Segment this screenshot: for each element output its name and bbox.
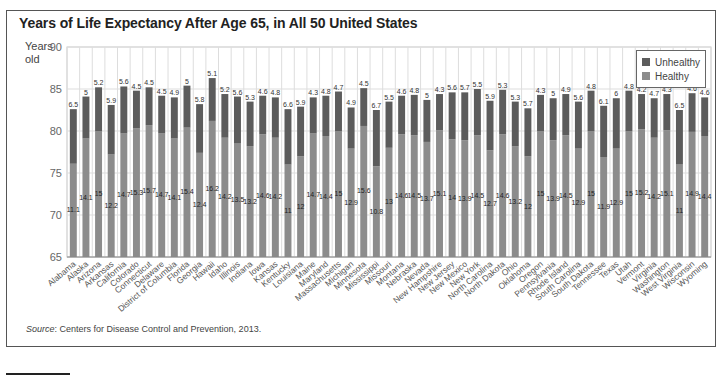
value-label-unhealthy: 5.6 [447,84,457,91]
value-label-healthy: 15.6 [357,187,371,194]
value-label-unhealthy: 4.7 [334,84,344,91]
value-label-healthy: 11.9 [597,203,610,210]
value-label-unhealthy: 4.8 [409,87,419,94]
bar-unhealthy [234,97,241,144]
bar-unhealthy [360,88,367,126]
value-label-healthy: 14.5 [471,192,485,199]
value-label-healthy: 15 [537,190,545,197]
value-label-unhealthy: 5.5 [384,94,394,101]
value-label-unhealthy: 4.5 [132,83,142,90]
value-label-unhealthy: 5.3 [510,94,520,101]
value-label-healthy: 14.1 [79,194,93,201]
value-label-unhealthy: 5.7 [460,84,470,91]
legend-label-unhealthy: Unhealthy [655,57,700,68]
bar-unhealthy [423,100,430,142]
value-label-healthy: 14.4 [698,193,712,200]
value-label-unhealthy: 5.9 [485,93,495,100]
bar-unhealthy [221,94,228,138]
y-tick-label: 75 [50,167,62,179]
value-label-healthy: 12.7 [483,200,497,207]
value-label-healthy: 12.2 [104,202,118,209]
value-label-healthy: 13.2 [508,198,522,205]
value-label-healthy: 11.1 [67,206,80,213]
value-label-unhealthy: 4.5 [144,79,154,86]
value-label-unhealthy: 4.9 [561,86,571,93]
value-label-healthy: 14.4 [319,193,333,200]
value-label-unhealthy: 5.1 [207,70,217,77]
value-label-unhealthy: 4.8 [270,89,280,96]
value-label-unhealthy: 6.7 [372,102,382,109]
bar-unhealthy [82,97,89,139]
value-label-unhealthy: 5.5 [473,81,483,88]
bar-unhealthy [436,94,443,130]
value-label-healthy: 12.9 [344,199,358,206]
y-tick-label: 80 [50,125,62,137]
value-label-unhealthy: 4.8 [586,83,596,90]
bar-unhealthy [613,98,620,148]
bar-unhealthy [146,87,153,125]
value-label-unhealthy: 5.2 [220,86,230,93]
source-prefix: Source [26,324,55,334]
bar-unhealthy [499,90,506,135]
bar-unhealthy [600,106,607,157]
bar-unhealthy [638,94,645,129]
value-label-unhealthy: 4.6 [397,88,407,95]
value-label-unhealthy: 4.8 [624,83,634,90]
bar-unhealthy [474,89,481,135]
bar-unhealthy [550,98,557,140]
value-label-healthy: 15.4 [180,188,194,195]
value-label-healthy: 15.1 [433,190,447,197]
bar-unhealthy [398,96,405,135]
bar-unhealthy [196,104,203,153]
bar-unhealthy [676,110,683,165]
value-label-unhealthy: 6 [614,90,618,97]
value-label-healthy: 10.8 [370,208,384,215]
healthy-swatch [642,72,650,80]
value-label-unhealthy: 4.9 [169,89,179,96]
value-label-unhealthy: 5.6 [574,94,584,101]
value-label-unhealthy: 5.9 [296,99,306,106]
value-label-healthy: 15 [625,190,633,197]
value-label-unhealthy: 5.8 [195,96,205,103]
value-label-unhealthy: 5 [84,89,88,96]
bar-unhealthy [108,105,115,155]
bar-unhealthy [537,95,544,131]
bar-unhealthy [689,93,696,132]
bar-unhealthy [651,98,658,137]
bar-unhealthy [348,107,355,148]
bar-unhealthy [183,86,190,128]
bar-unhealthy [449,92,456,139]
bar-unhealthy [575,102,582,149]
value-label-healthy: 15.1 [660,190,674,197]
bar-unhealthy [335,92,342,131]
value-label-healthy: 12.4 [193,201,207,208]
bar-unhealthy [70,109,77,164]
value-label-healthy: 14.2 [269,193,283,200]
bar-unhealthy [259,96,266,135]
footer-rule [6,373,70,375]
y-tick-label: 85 [50,83,62,95]
value-label-healthy: 12.9 [609,199,623,206]
value-label-healthy: 16.2 [205,185,219,192]
bar-unhealthy [663,94,670,130]
bar-unhealthy [322,96,329,136]
bar-unhealthy [247,102,254,147]
value-label-healthy: 11 [284,207,291,214]
bar-unhealthy [562,94,569,135]
value-label-unhealthy: 5.6 [233,89,243,96]
value-label-healthy: 12.9 [572,199,586,206]
value-label-healthy: 14 [448,194,456,201]
value-label-unhealthy: 4.5 [157,88,167,95]
bar-unhealthy [158,96,165,134]
bar-unhealthy [310,97,317,133]
bar-unhealthy [297,107,304,157]
value-label-healthy: 15 [95,190,103,197]
bar-unhealthy [171,97,178,138]
value-label-unhealthy: 6.1 [599,98,609,105]
bar-unhealthy [285,109,292,164]
legend-item-healthy: Healthy [642,69,700,83]
bar-unhealthy [461,92,468,140]
bar-unhealthy [373,110,380,166]
value-label-unhealthy: 5.9 [106,97,116,104]
unhealthy-swatch [642,58,650,66]
